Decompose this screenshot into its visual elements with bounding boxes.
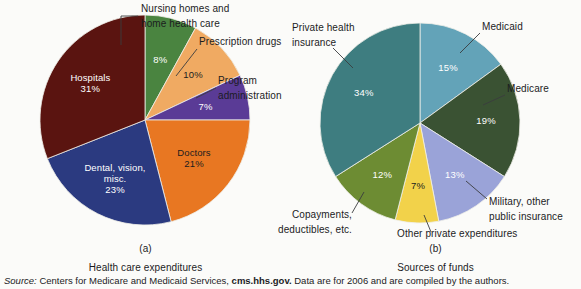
pie-slice-name-label: Hospitals bbox=[70, 72, 110, 83]
pie-slice-value-label: 12% bbox=[373, 169, 393, 180]
panel-b-title: Sources of funds bbox=[290, 262, 581, 273]
pie-slice-value-label: 13% bbox=[445, 169, 465, 180]
callout-copayments-line1: Copayments, bbox=[292, 209, 352, 220]
callout-program-administration-line1: Program bbox=[218, 75, 257, 86]
panel-a-title: Health care expenditures bbox=[0, 262, 291, 273]
pie-slice-value-label: 19% bbox=[476, 115, 496, 126]
callout-program-administration-line2: administration bbox=[218, 90, 282, 101]
panel-health-care-expenditures: 8%10%7%Doctors21%Dental, vision,misc.23%… bbox=[0, 0, 291, 258]
callout-private-health-insurance-line2: insurance bbox=[292, 37, 337, 48]
pie-slice-value-label: 7% bbox=[411, 180, 425, 191]
source-site: cms.hhs.gov. bbox=[232, 275, 292, 286]
pie-slice-value-label: 21% bbox=[184, 158, 204, 169]
source-label: Source: bbox=[4, 275, 37, 286]
pie-slice-value-label: 10% bbox=[183, 69, 203, 80]
pie-slice-value-label: 34% bbox=[354, 87, 374, 98]
pie-slice-value-label: 23% bbox=[105, 184, 125, 195]
pie-slice-value-label: 31% bbox=[81, 83, 101, 94]
pie-chart-b: 15%19%13%7%12%34% Medicaid Medicare Mili… bbox=[290, 0, 581, 258]
callout-medicare: Medicare bbox=[507, 83, 549, 94]
pie-slice-name-label: misc. bbox=[104, 173, 127, 184]
callout-medicaid: Medicaid bbox=[482, 21, 523, 32]
pie-slice-name-label: Dental, vision, bbox=[84, 162, 145, 173]
pie-slice-name-label: Doctors bbox=[177, 147, 211, 158]
callout-nursing-homes-line2: home health care bbox=[141, 18, 220, 29]
source-body-before: Centers for Medicare and Medicaid Servic… bbox=[37, 275, 232, 286]
source-body-after: Data are for 2006 and are compiled by th… bbox=[292, 275, 510, 286]
figure-health-care-pies: 8%10%7%Doctors21%Dental, vision,misc.23%… bbox=[0, 0, 581, 289]
pie-slice-value-label: 15% bbox=[438, 62, 458, 73]
pie-chart-a: 8%10%7%Doctors21%Dental, vision,misc.23%… bbox=[0, 0, 291, 258]
callout-private-health-insurance-line1: Private health bbox=[292, 22, 355, 33]
callout-copayments-line2: deductibles, etc. bbox=[278, 224, 352, 235]
source-note: Source: Centers for Medicare and Medicai… bbox=[4, 275, 509, 286]
callout-military-line2: public insurance bbox=[489, 211, 563, 222]
panel-b-letter: (b) bbox=[290, 243, 581, 254]
callout-other-private-expenditures: Other private expenditures bbox=[397, 228, 517, 239]
pie-slice-value-label: 8% bbox=[153, 54, 167, 65]
panel-a-letter: (a) bbox=[0, 243, 291, 254]
panel-sources-of-funds: 15%19%13%7%12%34% Medicaid Medicare Mili… bbox=[290, 0, 581, 258]
callout-nursing-homes-line1: Nursing homes and bbox=[141, 3, 229, 14]
callout-prescription-drugs: Prescription drugs bbox=[199, 36, 281, 47]
callout-military-line1: Military, other bbox=[489, 196, 550, 207]
pie-slice-value-label: 7% bbox=[198, 101, 212, 112]
